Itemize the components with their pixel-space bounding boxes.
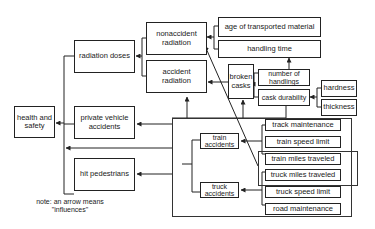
node-train-accidents: train accidents bbox=[200, 133, 239, 149]
node-number-of-handlings: number of handlings bbox=[258, 69, 310, 86]
label: broken casks bbox=[230, 73, 253, 90]
node-road-maintenance: road maintenance bbox=[265, 203, 341, 215]
label: thickness bbox=[323, 103, 354, 112]
node-truck-accidents: truck accidents bbox=[200, 182, 239, 198]
node-truck-speed-limit: truck speed limit bbox=[265, 186, 341, 198]
node-nonaccident-radiation: nonaccident radiation bbox=[146, 22, 207, 55]
node-health-and-safety: health and safety bbox=[14, 106, 55, 138]
node-truck-miles-traveled: truck miles traveled bbox=[265, 169, 341, 181]
label: number of handlings bbox=[260, 70, 308, 85]
label: train speed limit bbox=[277, 138, 330, 147]
note-line-2: "influences" bbox=[30, 206, 110, 214]
label: road maintenance bbox=[273, 205, 333, 214]
legend-note: note: an arrow means "influences" bbox=[30, 198, 110, 214]
label: cask durability bbox=[262, 94, 306, 102]
node-private-vehicle-accidents: private vehicle accidents bbox=[74, 106, 135, 139]
label: train accidents bbox=[202, 134, 237, 149]
label: accident radiation bbox=[148, 68, 205, 85]
node-cask-durability: cask durability bbox=[258, 89, 310, 106]
label: health and safety bbox=[16, 114, 53, 131]
note-line-1: note: an arrow means bbox=[30, 198, 110, 206]
node-age-of-transported-material: age of transported material bbox=[218, 17, 321, 37]
node-hardness: hardness bbox=[321, 80, 357, 97]
node-track-maintenance: track maintenance bbox=[265, 119, 341, 131]
node-handling-time: handling time bbox=[218, 40, 321, 58]
node-train-speed-limit: train speed limit bbox=[265, 136, 341, 148]
label: train miles traveled bbox=[272, 155, 335, 164]
node-thickness: thickness bbox=[321, 99, 357, 116]
label: truck speed limit bbox=[276, 188, 330, 197]
label: private vehicle accidents bbox=[76, 114, 133, 131]
node-train-miles-traveled: train miles traveled bbox=[265, 153, 341, 165]
label: radiation doses bbox=[79, 52, 130, 61]
label: handling time bbox=[247, 45, 292, 54]
node-radiation-doses: radiation doses bbox=[74, 40, 135, 73]
node-hit-pedestrians: hit pedestrians bbox=[74, 158, 135, 191]
label: truck miles traveled bbox=[271, 171, 336, 180]
node-broken-casks: broken casks bbox=[228, 64, 254, 99]
label: hit pedestrians bbox=[80, 170, 129, 179]
label: truck accidents bbox=[202, 183, 237, 198]
label: age of transported material bbox=[225, 23, 315, 32]
label: hardness bbox=[324, 84, 355, 93]
label: track maintenance bbox=[272, 121, 333, 130]
label: nonaccident radiation bbox=[148, 30, 205, 47]
node-accident-radiation: accident radiation bbox=[146, 60, 207, 93]
